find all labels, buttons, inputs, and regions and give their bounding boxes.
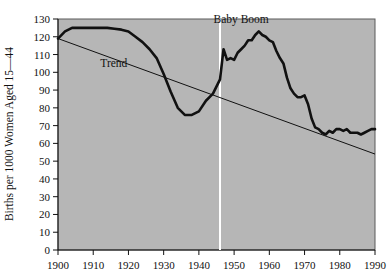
y-tick-label: 80 xyxy=(39,102,51,114)
x-tick-label: 1930 xyxy=(153,259,176,271)
y-tick-label: 90 xyxy=(39,84,51,96)
x-tick-label: 1910 xyxy=(82,259,105,271)
y-tick-label: 0 xyxy=(45,244,51,256)
y-tick-label: 20 xyxy=(39,208,51,220)
x-tick-label: 1970 xyxy=(294,259,317,271)
y-tick-label: 120 xyxy=(34,31,51,43)
y-tick-label: 40 xyxy=(39,173,51,185)
y-tick-label: 130 xyxy=(34,13,51,25)
x-tick-label: 1980 xyxy=(329,259,352,271)
y-tick-label: 100 xyxy=(34,66,51,78)
y-axis-title: Births per 1000 Women Aged 15—44 xyxy=(3,47,16,221)
y-tick-label: 50 xyxy=(39,155,51,167)
y-tick-label: 70 xyxy=(39,120,51,132)
baby-boom-annotation-label: Baby Boom xyxy=(214,13,269,26)
x-tick-label: 1990 xyxy=(364,259,387,271)
x-axis-tick-labels: 1900191019201930194019501960197019801990 xyxy=(47,259,387,271)
y-tick-label: 110 xyxy=(34,49,51,61)
trend-annotation-label: Trend xyxy=(100,57,127,69)
x-tick-label: 1900 xyxy=(47,259,70,271)
x-tick-label: 1950 xyxy=(223,259,246,271)
x-tick-label: 1960 xyxy=(258,259,281,271)
x-axis-ticks xyxy=(58,250,375,255)
birth-rate-chart: 0102030405060708090100110120130 19001910… xyxy=(0,0,390,280)
y-axis-ticks xyxy=(53,19,58,250)
y-tick-label: 60 xyxy=(39,137,51,149)
y-tick-label: 30 xyxy=(39,191,51,203)
y-axis-tick-labels: 0102030405060708090100110120130 xyxy=(34,13,51,256)
x-tick-label: 1920 xyxy=(117,259,140,271)
chart-canvas: 0102030405060708090100110120130 19001910… xyxy=(0,0,390,280)
x-tick-label: 1940 xyxy=(188,259,211,271)
y-tick-label: 10 xyxy=(39,226,51,238)
